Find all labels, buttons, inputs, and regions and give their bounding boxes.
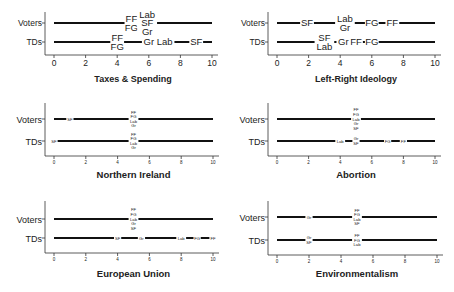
row-label-voters: Voters <box>239 213 265 223</box>
x-tick-label: 4 <box>115 58 120 68</box>
party-label-sf: SF <box>353 141 359 146</box>
x-tick-label: 6 <box>146 58 151 68</box>
party-label-fg: FG <box>194 236 200 241</box>
panel-title: Left-Right Ideology <box>315 74 397 84</box>
chart-svg: 0246810VotersFFFGLabGrSFTDsLabGrSFFGFFAb… <box>227 95 454 190</box>
x-tick-label: 10 <box>432 160 438 165</box>
row-label-voters: Voters <box>241 18 265 28</box>
x-tick-label: 4 <box>340 259 343 264</box>
panel-title: Taxes & Spending <box>94 74 171 84</box>
x-tick-label: 10 <box>207 58 217 68</box>
x-tick-label: 10 <box>430 58 440 68</box>
party-label-sf: SF <box>51 139 57 144</box>
panel-european-union: 0246810VotersFFFGLabGrSFTDsSFLabFGFFGrEu… <box>0 195 227 292</box>
x-tick-label: 0 <box>276 160 279 165</box>
panel-title: European Union <box>97 268 171 279</box>
chart-svg: 0246810VotersFFFGLabGrSFTDsSFLabFGFFGrEu… <box>0 195 227 292</box>
x-tick-label: 8 <box>180 257 183 262</box>
party-label-lab: Lab <box>354 242 362 247</box>
x-tick-label: 8 <box>401 58 406 68</box>
party-label-sf: SF <box>301 17 313 28</box>
party-label-gr: Gr <box>142 26 153 37</box>
party-label-sf: SF <box>67 117 73 122</box>
party-label-ff: FF <box>401 139 407 144</box>
x-tick-label: 4 <box>339 160 342 165</box>
party-label-fg: FG <box>365 36 378 47</box>
x-tick-label: 8 <box>180 160 183 165</box>
panel-environmentalism: 0246810VotersGrFFFGLabSFTDsGrSFFFFGLabEn… <box>227 195 454 292</box>
x-tick-label: 2 <box>85 257 88 262</box>
x-tick-label: 2 <box>83 58 88 68</box>
party-label-lab: Lab <box>178 236 186 241</box>
chart-svg: 0246810VotersGrFFFGLabSFTDsGrSFFFFGLabEn… <box>227 195 454 292</box>
x-tick-label: 6 <box>369 58 374 68</box>
party-label-sf: SF <box>353 126 359 131</box>
x-tick-label: 2 <box>307 160 310 165</box>
party-label-gr: Gr <box>139 236 144 241</box>
party-label-gr: Gr <box>338 36 349 47</box>
figure-caption <box>140 283 320 291</box>
x-tick-label: 10 <box>210 160 216 165</box>
row-label-tds: TDs <box>26 37 42 47</box>
x-tick-label: 4 <box>116 160 119 165</box>
party-label-ff: FF <box>350 36 362 47</box>
row-label-tds: TDs <box>26 137 43 147</box>
party-label-gr: Gr <box>340 22 351 33</box>
x-tick-label: 6 <box>148 257 151 262</box>
x-tick-label: 0 <box>52 58 57 68</box>
party-label-ff: FF <box>210 236 216 241</box>
panel-title: Northern Ireland <box>97 169 171 180</box>
x-tick-label: 0 <box>275 58 280 68</box>
x-tick-label: 8 <box>404 259 407 264</box>
party-label-fg: FG <box>111 41 124 52</box>
row-label-tds: TDs <box>26 234 43 244</box>
x-tick-label: 0 <box>276 259 279 264</box>
x-tick-label: 10 <box>434 259 440 264</box>
x-tick-label: 6 <box>372 259 375 264</box>
x-tick-label: 0 <box>53 160 56 165</box>
party-label-lab: Lab <box>337 139 345 144</box>
row-label-voters: Voters <box>239 115 265 125</box>
panel-left-right-ideology: 0246810VotersFGSFLabGrFFTDsSFLabFFFGGrLe… <box>227 0 454 92</box>
party-label-sf: SF <box>190 36 202 47</box>
chart-svg: 0246810VotersSFFFFGLabGrTDsSFFFFGLabGrNo… <box>0 95 227 190</box>
x-tick-label: 6 <box>148 160 151 165</box>
panel-northern-ireland: 0246810VotersSFFFFGLabGrTDsSFFFFGLabGrNo… <box>0 95 227 190</box>
x-tick-label: 8 <box>178 58 183 68</box>
party-label-sf: SF <box>354 221 360 226</box>
chart-svg: 0246810VotersFFFGLabSFGrTDsFFFGGrLabSFTa… <box>0 0 227 92</box>
panel-title: Abortion <box>336 169 376 180</box>
party-label-ff: FF <box>387 17 399 28</box>
party-label-gr: Gr <box>131 123 136 128</box>
x-tick-label: 2 <box>85 160 88 165</box>
chart-svg: 0246810VotersFGSFLabGrFFTDsSFLabFFFGGrLe… <box>227 0 454 92</box>
party-label-fg: FG <box>365 17 378 28</box>
party-label-gr: Gr <box>307 215 312 220</box>
row-label-tds: TDs <box>249 236 266 246</box>
x-tick-label: 2 <box>308 259 311 264</box>
row-label-voters: Voters <box>16 215 42 225</box>
x-tick-label: 2 <box>306 58 311 68</box>
x-tick-label: 8 <box>402 160 405 165</box>
party-label-gr: Gr <box>131 145 136 150</box>
party-label-lab: Lab <box>157 36 173 47</box>
x-tick-label: 6 <box>371 160 374 165</box>
row-label-voters: Voters <box>18 18 42 28</box>
party-label-sf: SF <box>115 236 121 241</box>
party-label-gr: Gr <box>144 36 155 47</box>
party-label-sf: SF <box>131 226 137 231</box>
party-label-lab: Lab <box>316 41 332 52</box>
x-tick-label: 0 <box>53 257 56 262</box>
x-tick-label: 4 <box>338 58 343 68</box>
x-tick-label: 10 <box>210 257 216 262</box>
row-label-tds: TDs <box>249 137 266 147</box>
x-tick-label: 4 <box>116 257 119 262</box>
panel-title: Environmentalism <box>316 268 398 279</box>
panel-abortion: 0246810VotersFFFGLabGrSFTDsLabGrSFFGFFAb… <box>227 95 454 190</box>
party-label-sf: SF <box>306 240 312 245</box>
party-label-fg: FG <box>125 22 138 33</box>
row-label-tds: TDs <box>249 37 265 47</box>
panel-taxes-spending: 0246810VotersFFFGLabSFGrTDsFFFGGrLabSFTa… <box>0 0 227 92</box>
party-label-fg: FG <box>385 139 391 144</box>
row-label-voters: Voters <box>16 115 42 125</box>
